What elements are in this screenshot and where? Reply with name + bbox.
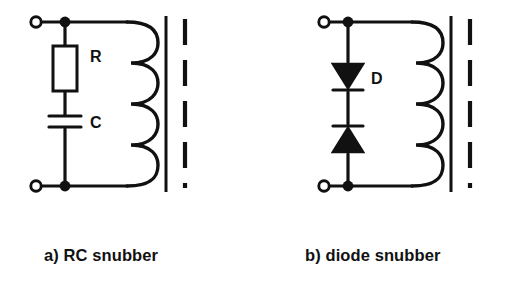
- caption-diode-snubber: b) diode snubber: [305, 246, 440, 265]
- caption-rc-snubber: a) RC snubber: [44, 246, 158, 265]
- d-top-terminal: [319, 17, 329, 27]
- d-bottom-junction-dot: [343, 181, 354, 192]
- snubber-figure: R C: [0, 0, 523, 299]
- diode-upper-symbol: [333, 64, 363, 90]
- diode-label: D: [371, 70, 383, 87]
- diode-lower-symbol: [333, 126, 363, 152]
- inductor-coil-symbol: [412, 22, 443, 186]
- d-bottom-terminal: [319, 181, 329, 191]
- d-top-junction-dot: [343, 17, 354, 28]
